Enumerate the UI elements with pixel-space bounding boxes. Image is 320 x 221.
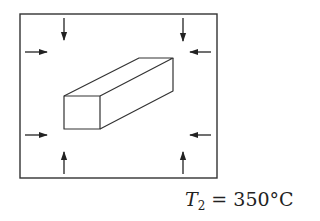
temperature-label: T2 = 350°C — [185, 188, 294, 213]
bar-front-face — [64, 96, 100, 129]
temperature-variable: T — [185, 188, 198, 210]
temperature-value: = 350°C — [205, 188, 293, 210]
enclosure-box — [20, 14, 217, 178]
rectangular-bar — [64, 58, 173, 129]
bar-side-face — [100, 58, 173, 129]
arrows — [25, 18, 211, 174]
bar-top-face — [64, 58, 173, 96]
